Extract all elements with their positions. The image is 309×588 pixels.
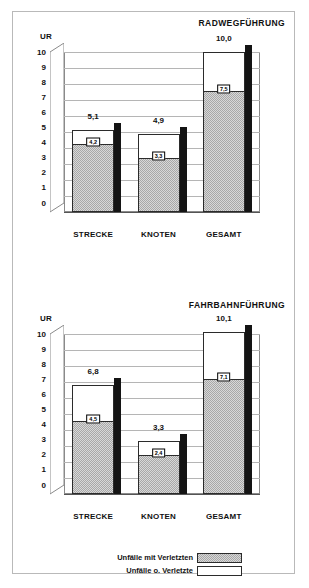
plot-inner: 012345678910 5,14,24,93,310,07,5 (64, 52, 260, 212)
bar-segment-label: 7,1 (217, 373, 231, 382)
bar-top-face (180, 127, 187, 134)
bar-side-face (245, 52, 252, 212)
spine-svg (50, 43, 64, 221)
bar-column-white (72, 385, 114, 494)
spine-svg (50, 325, 64, 503)
chart-title: FAHRBAHNFÜHRUNG (189, 300, 285, 310)
bar-segment-injury (73, 421, 113, 493)
bar-side-face (114, 130, 121, 212)
y-tick-label: 0 (32, 198, 46, 207)
chart-title: RADWEGFÜHRUNG (199, 18, 285, 28)
bar-top-face (180, 434, 187, 441)
plot-area: 012345678910 5,14,24,93,310,07,5 STRECKE… (36, 44, 276, 222)
y-tick-label: 5 (32, 123, 46, 132)
x-axis-labels: STRECKEKNOTENGESAMT (64, 230, 260, 244)
y-tick-label: 0 (32, 480, 46, 489)
bar-segment-label: 7,5 (217, 85, 231, 94)
axis-baseline (64, 212, 260, 213)
bar-segment-injury (73, 144, 113, 211)
legend-item: Unfälle mit Verletzten (0, 552, 309, 565)
bar-top-face (245, 45, 252, 52)
bar-column-white (203, 332, 245, 494)
bar-segment-label: 4,5 (86, 415, 100, 424)
bar-segment-label: 4,2 (86, 137, 100, 146)
x-axis-label: GESAMT (206, 230, 241, 239)
bar-segment-injury (139, 455, 179, 493)
y-tick-label: 8 (32, 359, 46, 368)
x-axis-label: STRECKE (73, 512, 113, 521)
bar-knoten: 3,32,4 (138, 441, 180, 494)
y-tick-label: 6 (32, 389, 46, 398)
y-tick-label: 2 (32, 168, 46, 177)
y-tick-label: 1 (32, 183, 46, 192)
bar-side-face (180, 441, 187, 494)
y-axis-title: UR (40, 314, 52, 323)
bar-total-label: 10,0 (216, 34, 232, 43)
legend-item: Unfälle o. Verletzte (0, 565, 309, 578)
y-tick-label: 1 (32, 465, 46, 474)
figure-page: RADWEGFÜHRUNG UR 012345678910 5,14,24,93… (0, 0, 309, 588)
bar-segment-injury (204, 91, 244, 211)
y-axis-3d-spine (50, 325, 64, 494)
bar-side-face (245, 332, 252, 494)
bar-segment-injury (204, 379, 244, 493)
axis-baseline (64, 494, 260, 495)
bar-gesamt: 10,07,5 (203, 52, 245, 212)
plot-inner: 012345678910 6,84,53,32,410,17,1 (64, 334, 260, 494)
bar-gesamt: 10,17,1 (203, 332, 245, 494)
legend-label: Unfälle o. Verletzte (126, 565, 193, 576)
x-axis-label: KNOTEN (141, 512, 176, 521)
bar-segment-injury (139, 158, 179, 211)
y-tick-label: 9 (32, 62, 46, 71)
bar-column-white (203, 52, 245, 212)
bar-strecke: 6,84,5 (72, 385, 114, 494)
chart-fahrbahnfuehrung: FAHRBAHNFÜHRUNG UR 012345678910 6,84,53,… (0, 300, 309, 550)
y-tick-label: 7 (32, 374, 46, 383)
bar-top-face (114, 123, 121, 130)
legend: Unfälle mit Verletzten Unfälle o. Verlet… (0, 552, 309, 578)
bar-segment-label: 2,4 (152, 448, 166, 457)
bar-knoten: 4,93,3 (138, 134, 180, 212)
legend-swatch-white (197, 566, 242, 576)
y-tick-label: 8 (32, 77, 46, 86)
x-axis-label: STRECKE (73, 230, 113, 239)
bar-total-label: 3,3 (153, 423, 164, 432)
bar-total-label: 4,9 (153, 116, 164, 125)
y-tick-label: 4 (32, 420, 46, 429)
y-tick-label: 6 (32, 107, 46, 116)
bar-column-white (138, 134, 180, 212)
bar-total-label: 5,1 (88, 112, 99, 121)
legend-label: Unfälle mit Verletzten (117, 552, 193, 563)
x-axis-labels: STRECKEKNOTENGESAMT (64, 512, 260, 526)
bar-total-label: 10,1 (216, 314, 232, 323)
chart-radwegfuehrung: RADWEGFÜHRUNG UR 012345678910 5,14,24,93… (0, 18, 309, 290)
bar-total-label: 6,8 (88, 367, 99, 376)
y-tick-label: 3 (32, 435, 46, 444)
bar-side-face (180, 134, 187, 212)
x-axis-label: GESAMT (206, 512, 241, 521)
plot-area: 012345678910 6,84,53,32,410,17,1 STRECKE… (36, 326, 276, 504)
y-tick-label: 9 (32, 344, 46, 353)
legend-swatch-gray (197, 553, 242, 563)
y-axis-3d-spine (50, 43, 64, 212)
y-tick-label: 2 (32, 450, 46, 459)
y-tick-label: 7 (32, 92, 46, 101)
x-axis-label: KNOTEN (141, 230, 176, 239)
bar-top-face (114, 378, 121, 385)
y-tick-label: 10 (32, 329, 46, 338)
bar-top-face (245, 325, 252, 332)
y-tick-label: 4 (32, 138, 46, 147)
y-tick-label: 10 (32, 47, 46, 56)
y-axis-title: UR (40, 32, 52, 41)
y-tick-label: 3 (32, 153, 46, 162)
y-tick-label: 5 (32, 405, 46, 414)
bar-side-face (114, 385, 121, 494)
bar-strecke: 5,14,2 (72, 130, 114, 212)
bar-segment-label: 3,3 (152, 152, 166, 161)
